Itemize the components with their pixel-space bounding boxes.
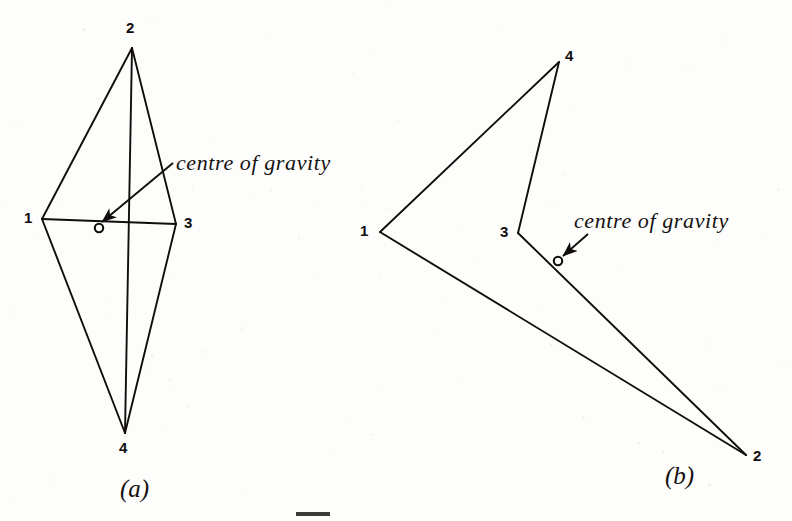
- scan-speck: [625, 63, 627, 65]
- leader-arrow-a: [102, 163, 173, 222]
- scan-speck: [571, 108, 572, 109]
- figure-page: 1 2 3 4 centre of gravity (a) 1 2 3 4 ce…: [0, 0, 792, 521]
- scan-speck: [618, 269, 619, 270]
- vertex-label-b-4: 4: [565, 48, 573, 63]
- scan-speck: [777, 188, 779, 190]
- edge-a-1: [132, 48, 176, 224]
- scan-speck: [344, 419, 345, 420]
- cropped-caption-sliver: [296, 512, 330, 516]
- vertex-label-a-3: 3: [184, 215, 192, 230]
- panel-b-centroid-marker: [554, 257, 562, 265]
- edge-a-3: [42, 219, 125, 433]
- panel-label-b: (b): [665, 463, 694, 488]
- panel-label-a: (a): [120, 476, 149, 501]
- panel-a-centroid-marker: [95, 224, 103, 232]
- vertex-label-b-3: 3: [500, 224, 508, 239]
- scan-speck: [551, 202, 553, 204]
- edge-a-2: [125, 224, 176, 433]
- leader-arrow-b: [563, 234, 588, 256]
- scan-speck: [82, 28, 84, 30]
- scan-speck: [705, 343, 707, 345]
- panel-b-linework: [380, 62, 746, 455]
- scan-speck: [168, 379, 170, 381]
- vertex-label-a-4: 4: [119, 440, 127, 455]
- scan-speck: [151, 355, 153, 357]
- scan-speck: [107, 391, 109, 393]
- scan-speck: [162, 428, 163, 429]
- edge-a-5: [125, 48, 132, 433]
- scan-speck: [314, 273, 315, 274]
- scan-speck: [719, 390, 721, 392]
- panel-a-linework: [42, 48, 176, 433]
- edge-b-3: [380, 232, 746, 455]
- edge-a-0: [42, 48, 132, 219]
- scan-speck: [562, 173, 564, 175]
- panel-b-arrow: [563, 234, 588, 256]
- annotation-centre-of-gravity-b: centre of gravity: [574, 210, 729, 232]
- scan-speck: [125, 225, 127, 227]
- vertex-label-b-1: 1: [360, 223, 368, 238]
- scan-speck: [687, 70, 688, 71]
- scan-speck: [708, 484, 710, 486]
- vertex-label-b-2: 2: [753, 448, 761, 463]
- vertex-label-a-2: 2: [126, 20, 134, 35]
- scan-speck: [13, 311, 14, 312]
- panel-a-arrow: [102, 163, 173, 222]
- annotation-centre-of-gravity-a: centre of gravity: [176, 152, 331, 174]
- scan-speck: [361, 207, 363, 209]
- scan-speck: [49, 479, 51, 481]
- scan-speck: [550, 344, 552, 346]
- scan-speck: [209, 142, 210, 143]
- edge-b-1: [518, 62, 559, 233]
- scan-speck: [372, 434, 374, 436]
- scan-speck: [441, 299, 443, 301]
- vertex-label-a-1: 1: [24, 210, 32, 225]
- edge-a-4: [42, 219, 176, 224]
- scan-speck: [662, 451, 664, 453]
- edge-b-0: [380, 62, 559, 232]
- scan-speck: [298, 237, 300, 239]
- scan-speck: [360, 185, 362, 187]
- scan-speck: [249, 197, 251, 199]
- scan-speck: [378, 273, 380, 275]
- centroid-point-b: [554, 257, 562, 265]
- centroid-point-a: [95, 224, 103, 232]
- scan-speck: [582, 416, 585, 419]
- scan-speck: [204, 350, 206, 352]
